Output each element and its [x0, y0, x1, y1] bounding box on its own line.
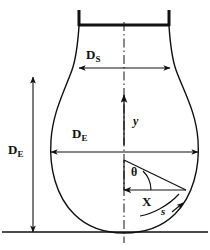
label-arc-length-s: s: [161, 206, 165, 217]
label-de-h-subscript: E: [81, 133, 87, 143]
label-horizontal-radius-x: X: [142, 195, 151, 208]
label-de-h-symbol: D: [72, 126, 81, 141]
label-axis-y: y: [133, 115, 138, 127]
label-ds-symbol: D: [86, 47, 95, 62]
label-de-v-subscript: E: [17, 149, 23, 159]
label-equatorial-diameter-vertical: DE: [8, 143, 23, 156]
label-ds-subscript: S: [95, 54, 100, 64]
label-equatorial-diameter-horizontal: DE: [72, 127, 87, 140]
vessel-geometry-figure: DS DE DE y X θ s: [0, 0, 210, 250]
label-neck-diameter: DS: [86, 48, 100, 61]
label-de-v-symbol: D: [8, 142, 17, 157]
angle-arc-theta: [143, 171, 151, 190]
diagram-canvas: [0, 0, 210, 250]
label-angle-theta: θ: [131, 166, 137, 178]
vessel-wall-right: [124, 26, 198, 233]
